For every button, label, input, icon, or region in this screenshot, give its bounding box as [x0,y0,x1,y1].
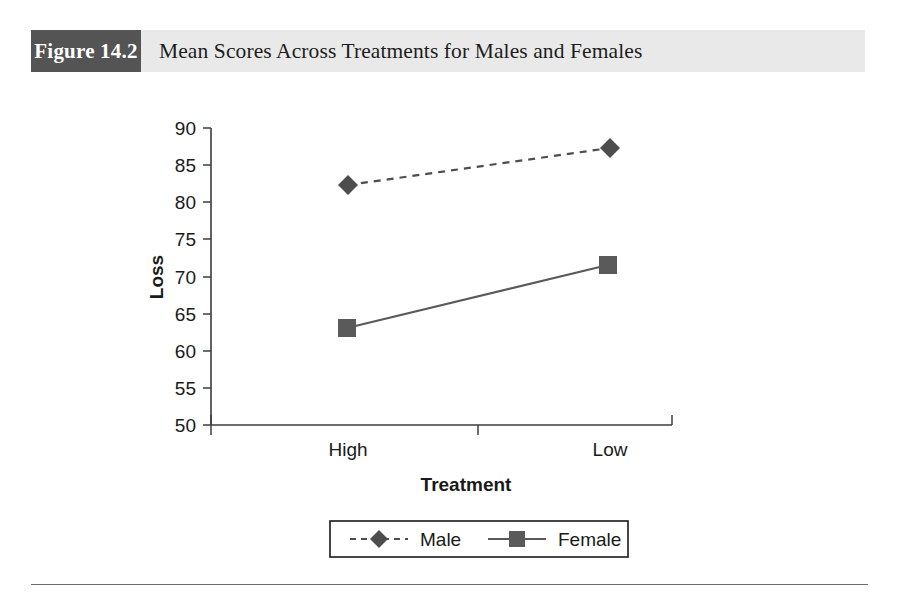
legend-box [330,521,628,557]
x-axis-tick-labels: High Low [328,439,627,460]
x-tick-label-high: High [328,439,367,460]
chart-container: 90 85 80 75 70 65 60 55 50 Loss High Low… [0,0,898,614]
y-axis-tick-labels: 90 85 80 75 70 65 60 55 50 [175,118,196,436]
y-tick-label: 85 [175,155,196,176]
legend-label-male: Male [420,529,461,550]
series-female-point-low [599,256,617,274]
series-female [338,256,617,337]
series-male-line [348,148,610,185]
x-axis-title: Treatment [421,474,512,495]
y-tick-label: 55 [175,378,196,399]
chart-legend: Male Female [330,521,628,557]
series-male [338,138,620,195]
diamond-icon [370,530,388,548]
y-tick-label: 75 [175,229,196,250]
y-tick-label: 80 [175,192,196,213]
legend-entry-female[interactable]: Female [488,529,621,550]
series-male-point-low [600,138,620,158]
y-axis-title: Loss [146,255,167,299]
y-tick-label: 50 [175,415,196,436]
legend-entry-male[interactable]: Male [350,529,461,550]
figure-header-band: Figure 14.2 Mean Scores Across Treatment… [31,30,865,72]
figure-number-label: Figure 14.2 [31,30,141,72]
square-icon [509,531,525,547]
figure-caption: Mean Scores Across Treatments for Males … [141,30,865,72]
bottom-divider [31,584,868,585]
x-axis-ticks [211,415,672,435]
x-tick-label-low: Low [593,439,628,460]
series-male-point-high [338,175,358,195]
series-female-line [347,265,608,328]
legend-label-female: Female [558,529,621,550]
y-tick-label: 60 [175,341,196,362]
y-tick-label: 90 [175,118,196,139]
y-tick-label: 70 [175,267,196,288]
y-tick-label: 65 [175,304,196,325]
series-female-point-high [338,319,356,337]
y-axis-ticks [203,128,211,425]
